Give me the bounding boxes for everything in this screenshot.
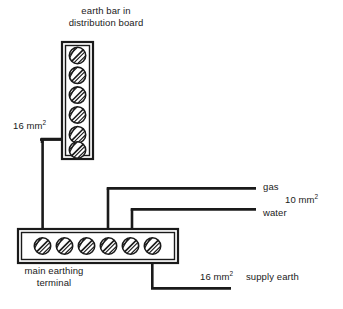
label-supply-earth: supply earth [246,271,299,283]
met-terminal [34,238,50,254]
diagram-canvas [0,0,343,309]
earth-bar-title-line1: earth bar in [81,5,130,16]
main-earthing-terminal-label: main earthingterminal [8,265,100,289]
conductor-bar-to-met [40,139,63,232]
label-16mm-bar-sup: 2 [43,119,47,126]
label-water: water [263,207,287,219]
label-16mm-bar-conductor: 16 mm2 [13,120,46,132]
earth-bar-terminal [69,107,85,123]
met-terminal [100,238,116,254]
earth-bar-terminal [69,67,85,83]
label-10mm-value: 10 mm [285,194,315,205]
label-16mm-supply-earth: 16 mm2 [200,271,233,283]
label-gas: gas [263,181,279,193]
met-terminal [78,238,94,254]
earth-bar-terminal [69,47,85,63]
earth-bar-terminal [69,142,85,158]
label-16mm-bar-value: 16 mm [13,120,43,131]
earth-bar-title: earth bar indistribution board [56,5,156,29]
earth-bar [62,42,93,159]
earth-bar-terminal [69,127,85,143]
met-label-line2: terminal [37,277,72,288]
earth-bar-terminal [69,87,85,103]
met-terminal [122,238,138,254]
met-terminal [56,238,72,254]
label-10mm-sup: 2 [315,193,319,200]
label-10mm-bonding: 10 mm2 [285,194,318,206]
earthing-diagram: earth bar indistribution board 16 mm2 ga… [0,0,343,309]
label-16mm-supply-sup: 2 [230,270,234,277]
main-earthing-terminal [18,229,178,263]
met-label-line1: main earthing [25,265,84,276]
earth-bar-title-line2: distribution board [69,17,144,28]
label-16mm-supply-value: 16 mm [200,271,230,282]
met-terminal [144,238,160,254]
